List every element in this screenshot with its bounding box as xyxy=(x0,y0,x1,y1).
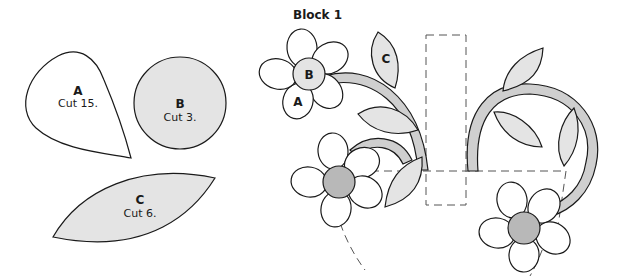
applique-pattern-diagram: A Cut 15. B Cut 3. C Cut 6. Block 1 C xyxy=(0,0,623,276)
block-title: Block 1 xyxy=(293,8,342,22)
template-b-letter: B xyxy=(175,97,184,111)
leaf-lower-left xyxy=(385,157,422,207)
template-b-circle: B Cut 3. xyxy=(134,57,226,149)
template-c-letter: C xyxy=(136,193,145,207)
center-b-label: B xyxy=(304,68,313,82)
template-a-petal: A Cut 15. xyxy=(26,52,131,158)
template-c-instruction: Cut 6. xyxy=(124,207,157,220)
leaf-right-side xyxy=(559,108,578,166)
template-c-leaf: C Cut 6. xyxy=(53,173,215,241)
leaf-right-middle xyxy=(494,112,542,147)
template-a-instruction: Cut 15. xyxy=(58,97,98,110)
petal-a-label: A xyxy=(293,95,303,109)
template-a-letter: A xyxy=(73,84,83,98)
flower-lower-right xyxy=(477,180,577,274)
template-b-instruction: Cut 3. xyxy=(164,111,197,124)
leaf-c-label: C xyxy=(382,52,391,66)
